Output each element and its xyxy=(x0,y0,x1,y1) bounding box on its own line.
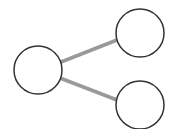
node-root xyxy=(14,46,62,94)
edge-root-to-child-top xyxy=(61,40,117,62)
tree-diagram xyxy=(0,0,180,129)
edge-root-to-child-bottom xyxy=(60,78,117,100)
nodes-group xyxy=(14,9,164,129)
node-child-bottom xyxy=(116,81,164,129)
edges-group xyxy=(60,40,117,100)
node-child-top xyxy=(116,9,164,57)
